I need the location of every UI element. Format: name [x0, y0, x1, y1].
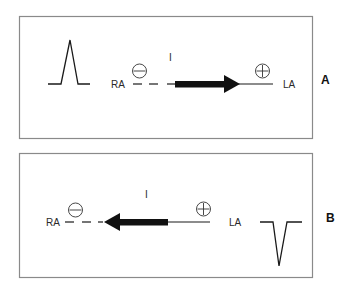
panel-b: I RA LA: [20, 154, 313, 278]
la-electrode-label: LA: [229, 217, 242, 228]
panel-a-label: A: [321, 73, 330, 87]
panel-a: RA I LA: [20, 17, 313, 139]
positive-waveform-icon: [48, 40, 90, 84]
positive-pole-icon: [256, 64, 270, 78]
negative-waveform-icon: [260, 222, 302, 266]
panel-b-frame: [20, 154, 313, 278]
ecg-lead-diagram: RA I LA A I RA: [0, 0, 349, 288]
panel-a-frame: [20, 17, 313, 139]
depolarization-arrow-left-icon: [104, 213, 168, 231]
negative-pole-icon: [69, 203, 83, 217]
ra-electrode-label: RA: [111, 79, 125, 90]
panel-b-label: B: [326, 211, 335, 225]
la-electrode-label: LA: [283, 79, 296, 90]
lead-i-label: I: [169, 52, 172, 63]
positive-pole-icon: [197, 202, 211, 216]
ra-electrode-label: RA: [46, 217, 60, 228]
depolarization-arrow-right-icon: [175, 75, 240, 93]
lead-i-label: I: [145, 189, 148, 200]
negative-pole-icon: [133, 64, 147, 78]
